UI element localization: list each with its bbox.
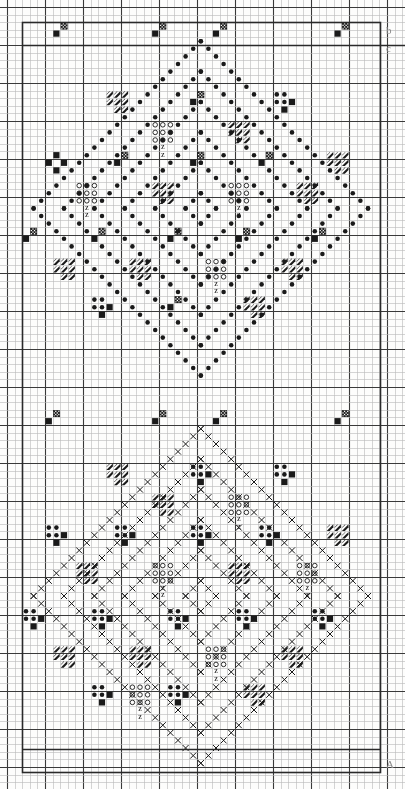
border-frame xyxy=(0,0,405,789)
edge-annotation-b: b xyxy=(386,24,392,36)
edge-annotation-a: A xyxy=(386,758,394,770)
edge-annotation-c: c xyxy=(386,42,391,54)
pattern-chart-page: b c A xyxy=(0,0,405,789)
